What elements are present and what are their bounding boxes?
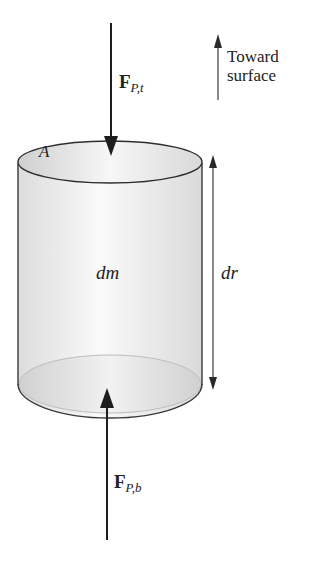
direction-label-line2: surface: [227, 66, 279, 85]
dr-dimension-arrow: [209, 155, 217, 390]
direction-label: Toward surface: [227, 47, 279, 85]
height-label: dr: [221, 262, 238, 284]
direction-label-line1: Toward: [227, 47, 279, 66]
top-force-label: FP,t: [119, 71, 144, 96]
area-label: A: [39, 142, 49, 162]
bottom-force-label: FP,b: [114, 471, 142, 496]
toward-surface-arrow: [214, 34, 222, 100]
top-force-arrow: [104, 23, 118, 156]
mass-label: dm: [96, 262, 119, 284]
